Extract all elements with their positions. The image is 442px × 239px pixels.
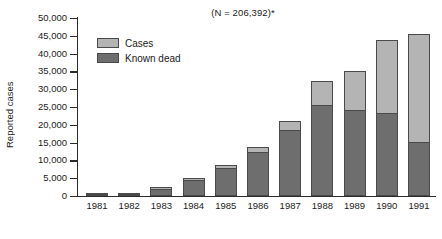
bar-segment-known-dead [215,168,237,196]
y-axis-tick-mark [70,89,78,90]
x-axis-tick-label-1991: 1991 [399,200,439,211]
y-axis-tick-mark [70,160,78,161]
bar-segment-known-dead [118,194,140,196]
bar-segment-known-dead [279,130,301,196]
bar-segment-cases [311,81,333,104]
y-axis-tick-label: 50,000 [38,12,67,23]
bar-segment-known-dead [86,194,108,196]
y-axis-tick-mark [70,36,78,37]
bar-segment-cases [408,34,430,142]
y-axis-tick-label: 40,000 [38,48,67,59]
bar-1982 [118,193,140,196]
y-axis-tick-mark [70,54,78,55]
y-axis-tick-mark [70,107,78,108]
bar-segment-known-dead [311,105,333,196]
bar-1989 [344,71,366,196]
y-axis-tick-label: 0 [62,190,67,201]
y-axis-tick-mark [70,125,78,126]
bar-segment-known-dead [344,110,366,197]
bar-1985 [215,165,237,196]
bar-1981 [86,193,108,196]
y-axis-tick-mark [70,18,78,19]
y-axis-tick-mark [70,143,78,144]
chart-legend: Cases Known dead [97,36,181,66]
bar-segment-cases [376,40,398,113]
legend-swatch-known-dead-icon [97,53,119,63]
y-axis-tick-label: 15,000 [38,137,67,148]
bar-1991 [408,34,430,196]
y-axis-label: Reported cases [2,50,16,180]
y-axis-tick-label: 20,000 [38,119,67,130]
bar-segment-known-dead [150,189,172,196]
bar-segment-known-dead [376,113,398,196]
bar-segment-cases [279,121,301,130]
bar-1986 [247,147,269,196]
bar-segment-known-dead [247,152,269,196]
y-axis-tick-label: 30,000 [38,83,67,94]
legend-item-cases: Cases [97,36,181,50]
y-axis-tick-mark [70,196,78,197]
bar-1988 [311,81,333,196]
legend-swatch-cases-icon [97,38,119,48]
bar-segment-cases [344,71,366,109]
stacked-bar-chart: (N = 206,392)* Reported cases 05,00010,0… [0,0,442,239]
y-axis-tick-mark [70,71,78,72]
legend-label-cases: Cases [125,38,153,49]
y-axis-tick-label: 10,000 [38,154,67,165]
legend-item-known-dead: Known dead [97,51,181,65]
y-axis-tick-label: 5,000 [43,172,67,183]
bar-segment-known-dead [408,142,430,196]
bar-segment-known-dead [183,180,205,196]
bar-1984 [183,178,205,196]
y-axis-tick-mark [70,178,78,179]
y-axis-tick-label: 35,000 [38,65,67,76]
bar-1987 [279,121,301,196]
y-axis-tick-label: 45,000 [38,30,67,41]
legend-label-known-dead: Known dead [125,53,181,64]
bar-1983 [150,187,172,196]
bar-1990 [376,40,398,196]
y-axis-tick-label: 25,000 [38,101,67,112]
